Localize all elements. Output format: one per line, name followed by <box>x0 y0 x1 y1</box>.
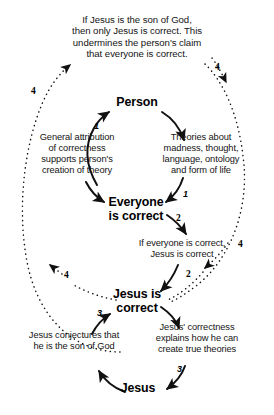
edge-text-jesus-correctness-explains: Jesus' correctness explains how he can c… <box>137 322 257 355</box>
diagram-caption: If Jesus is the son of God, then only Je… <box>36 14 238 59</box>
node-jesus-is-correct: Jesus is correct <box>93 288 181 316</box>
edge-text-theories-about: Theories about madness, thought, languag… <box>142 132 260 176</box>
cycle-label-4-right: 4 <box>238 239 243 249</box>
edge-text-if-everyone-correct: If everyone is correct, Jesus is correct <box>124 238 240 260</box>
cycle4-bottomleft-arrowhead <box>50 265 62 274</box>
cycle-label-2-bottom: 2 <box>186 269 191 279</box>
node-jesus: Jesus <box>103 382 173 396</box>
edge-text-general-attribution: General attribution of correctness suppo… <box>20 132 134 176</box>
cycle-label-3-right: 3 <box>177 364 182 374</box>
cycle-label-4-top-right: 4 <box>215 62 220 72</box>
cycle-label-3-left: 3 <box>97 308 102 318</box>
cycle-label-1-left: 1 <box>94 121 99 131</box>
cycle-label-2-top: 2 <box>176 213 181 223</box>
edge-text-jesus-conjectures: Jesus conjectures that he is the son of … <box>12 330 136 352</box>
node-person: Person <box>92 96 182 110</box>
diagram-canvas: If Jesus is the son of God, then only Je… <box>0 0 274 415</box>
cycle-label-1-right: 1 <box>183 189 188 199</box>
cycle-label-4-top-left: 4 <box>31 86 36 96</box>
cycle-label-4-bottom-left: 4 <box>64 270 69 280</box>
node-everyone-is-correct: Everyone is correct <box>90 196 182 224</box>
